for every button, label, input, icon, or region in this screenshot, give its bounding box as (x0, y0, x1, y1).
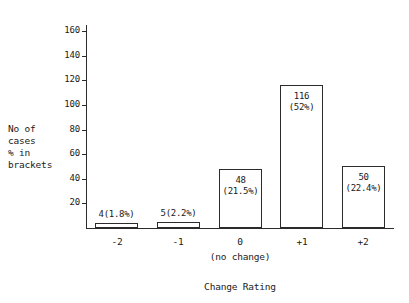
bar-percent: (22.4%) (334, 183, 393, 194)
y-tick-label: 140 (38, 51, 80, 60)
y-tick-mark (82, 179, 87, 180)
y-tick-label: 20 (38, 198, 80, 207)
y-axis-title-line: brackets (8, 159, 52, 171)
x-axis-title: Change Rating (140, 282, 340, 292)
x-category-label: +2 (333, 237, 393, 247)
bar-count: 48 (211, 175, 270, 186)
bar-count-percent: 5(2.2%) (143, 208, 214, 219)
bar-count: 116 (272, 91, 331, 102)
y-axis-title-line: No of (8, 123, 52, 135)
bar-chart: 20406080100120140160 4(1.8%)5(2.2%)48(21… (0, 0, 409, 303)
y-tick-mark (82, 105, 87, 106)
x-category-label: -1 (148, 237, 208, 247)
x-category-sublabel: (no change) (190, 252, 290, 262)
y-tick-label: 40 (38, 174, 80, 183)
y-tick-mark (82, 203, 87, 204)
bar-value-label: 116(52%) (272, 91, 331, 113)
y-tick-mark (82, 130, 87, 131)
y-tick-label: 160 (38, 26, 80, 35)
x-category-label: -2 (87, 237, 147, 247)
x-category-label: 0 (210, 237, 270, 247)
x-axis-line (86, 228, 394, 229)
y-axis-title: No ofcases% inbrackets (8, 123, 52, 171)
bar-value-label: 48(21.5%) (211, 175, 270, 197)
bar-value-label: 5(2.2%) (143, 208, 214, 219)
y-axis-title-line: % in (8, 147, 52, 159)
y-tick-mark (82, 80, 87, 81)
bar (95, 223, 138, 228)
y-tick-mark (82, 154, 87, 155)
bar-count-percent: 4(1.8%) (81, 209, 152, 220)
bar (157, 222, 200, 228)
y-tick-mark (82, 56, 87, 57)
y-tick-label: 120 (38, 75, 80, 84)
bar-percent: (52%) (272, 102, 331, 113)
bar-value-label: 50(22.4%) (334, 172, 393, 194)
y-tick-label: 100 (38, 100, 80, 109)
x-category-label: +1 (272, 237, 332, 247)
bar-value-label: 4(1.8%) (81, 209, 152, 220)
bar-count: 50 (334, 172, 393, 183)
bar-percent: (21.5%) (211, 186, 270, 197)
y-tick-mark (82, 31, 87, 32)
y-axis-title-line: cases (8, 135, 52, 147)
